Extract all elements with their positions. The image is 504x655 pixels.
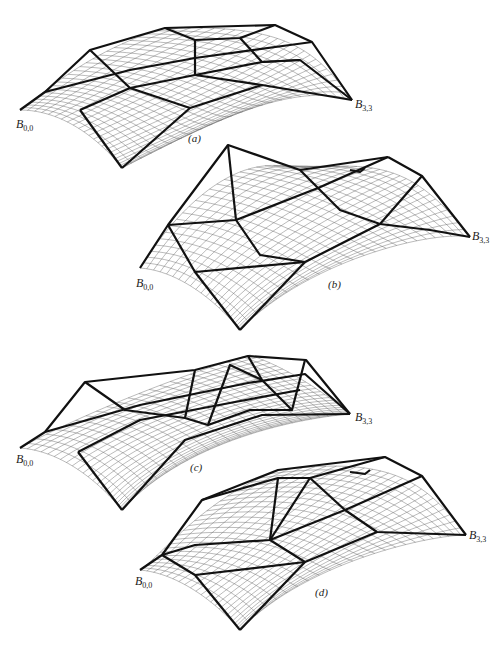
panel-b: B0,0 B3,3 (b): [136, 145, 489, 330]
surface-mesh-b: [140, 165, 470, 330]
panel-a: B0,0 B3,3 (a): [16, 25, 372, 168]
label-b00-d: B0,0: [135, 574, 152, 590]
label-b33-d: B3,3: [469, 528, 486, 544]
label-b00-c: B0,0: [16, 452, 33, 468]
label-b33-b: B3,3: [472, 229, 489, 245]
caption-d: (d): [315, 586, 328, 599]
bezier-surface-figure: B0,0 B3,3 (a) B0,0 B3,3 (b): [0, 0, 504, 655]
label-b00-b: B0,0: [136, 276, 153, 292]
caption-a: (a): [188, 132, 201, 145]
panel-d: B0,0 B3,3 (d): [135, 457, 486, 630]
label-b00-a: B0,0: [16, 117, 33, 133]
caption-c: (c): [190, 461, 203, 474]
caption-b: (b): [328, 278, 341, 291]
label-b33-c: B3,3: [355, 410, 372, 426]
label-b33-a: B3,3: [355, 97, 372, 113]
control-net-d: [140, 457, 466, 630]
surface-mesh-a: [20, 28, 352, 168]
